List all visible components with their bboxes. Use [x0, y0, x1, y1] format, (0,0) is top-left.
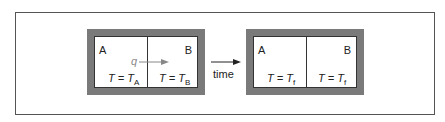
time-arrow-icon [211, 58, 241, 66]
final-state-interior: A B T = Tf T = Tf [253, 36, 357, 88]
region-b-label: B [185, 44, 192, 56]
region-b-label: B [344, 44, 351, 56]
region-b-temperature: T = TB [159, 72, 190, 87]
initial-state-container: A B q T = TA T = TB [87, 29, 205, 95]
initial-state-interior: A B q T = TA T = TB [94, 36, 198, 88]
region-a-temperature: T = TA [108, 72, 139, 87]
heat-flow-arrow-icon [139, 58, 169, 66]
final-state-container: A B T = Tf T = Tf [246, 29, 364, 95]
partition-wall [306, 37, 307, 87]
heat-flow-label: q [131, 55, 137, 67]
region-b-temperature: T = Tf [318, 72, 346, 87]
time-label: time [213, 68, 234, 80]
region-a-temperature: T = Tf [267, 72, 295, 87]
region-a-label: A [99, 44, 106, 56]
region-a-label: A [258, 44, 265, 56]
